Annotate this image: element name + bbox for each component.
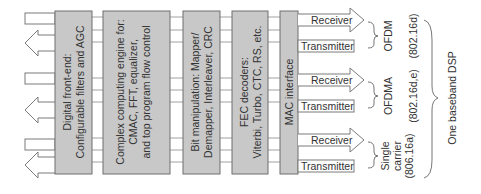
standard-ofdm: (802.16d) bbox=[407, 14, 419, 59]
receiver-label-3: Receiver bbox=[311, 134, 353, 146]
left-stub-3 bbox=[25, 139, 55, 150]
bit-manip-label-1: Bit manipulation: Mapper/ bbox=[189, 32, 201, 151]
fec-label-1: FEC decoders: bbox=[238, 57, 250, 127]
transmitter-label-2: Transmitter bbox=[301, 100, 354, 112]
right-io-labels: Receiver Transmitter Receiver Transmitte… bbox=[301, 14, 354, 172]
mode-single: Single bbox=[379, 141, 391, 170]
standard-single-carrier: (806.16a) bbox=[403, 134, 415, 179]
standard-ofdma: (802.16d,e) bbox=[407, 69, 419, 123]
complex-engine-label-1: Complex computing engine for: bbox=[114, 19, 126, 164]
mode-labels: OFDM OFDMA Single carrier (802.16d) (802… bbox=[379, 14, 458, 179]
brace-single-carrier bbox=[368, 142, 378, 168]
one-baseband-dsp-label: One baseband DSP bbox=[446, 51, 458, 144]
left-arrow-1 bbox=[25, 30, 55, 56]
bit-manip-label-2: Demapper, Interleaver, CRC bbox=[202, 26, 214, 158]
block-labels: Digital front-end: Configurable filters … bbox=[61, 19, 295, 164]
left-io-arrows bbox=[25, 13, 55, 178]
baseband-dsp-diagram: Digital front-end: Configurable filters … bbox=[0, 0, 481, 194]
receiver-label-1: Receiver bbox=[311, 14, 353, 26]
transmitter-label-1: Transmitter bbox=[301, 40, 354, 52]
complex-engine-label-2: CMAC, FFT, equalizer, bbox=[127, 39, 139, 145]
right-io bbox=[298, 8, 364, 172]
left-arrow-2 bbox=[25, 97, 55, 123]
fec-label-2: Viterbi, Turbo, CTC, RS, etc. bbox=[251, 26, 263, 159]
complex-engine-label-3: and top program flow control bbox=[140, 25, 152, 158]
mode-ofdm: OFDM bbox=[382, 21, 394, 52]
brace-one-baseband-dsp bbox=[424, 20, 438, 178]
brace-ofdm bbox=[368, 22, 378, 48]
mac-label: MAC interface bbox=[283, 59, 295, 126]
left-stub-2 bbox=[25, 73, 55, 84]
left-stub-1 bbox=[25, 13, 55, 24]
front-end-label-2: Configurable filters and AGC bbox=[74, 25, 86, 158]
transmitter-label-3: Transmitter bbox=[301, 160, 354, 172]
receiver-label-2: Receiver bbox=[311, 74, 353, 86]
mode-ofdma: OFDMA bbox=[382, 77, 394, 115]
mode-carrier: carrier bbox=[391, 141, 403, 171]
brace-ofdma bbox=[368, 82, 378, 108]
front-end-label-1: Digital front-end: bbox=[61, 53, 73, 130]
left-arrow-3 bbox=[25, 152, 55, 178]
